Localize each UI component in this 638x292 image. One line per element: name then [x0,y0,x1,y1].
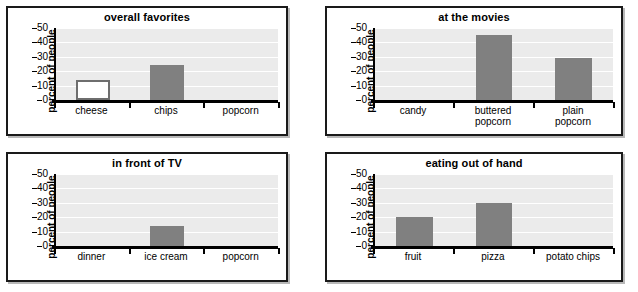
y-tick-mark [32,188,37,189]
x-tick-label: dinner [54,251,129,262]
bars-layer [375,28,613,100]
chart-panel-overall-favorites: overall favorites percent of people 0102… [6,6,288,136]
plot-wrap: 01020304050 [373,174,613,246]
plot-area [54,28,278,100]
bars-layer [56,174,278,246]
y-tick-mark [351,232,356,233]
y-tick-mark [351,217,356,218]
y-axis-ticks: 01020304050 [24,174,48,246]
y-tick-label: 0 [42,241,48,251]
y-tick-mark [32,86,37,87]
bar [476,35,512,100]
y-tick-label: 20 [356,66,367,76]
y-tick-mark [351,203,356,204]
bar [555,58,591,100]
bar-slot [56,28,130,100]
y-tick-mark [351,86,356,87]
plot-wrap: 01020304050 [54,174,278,246]
bar-slot [534,28,613,100]
y-tick-mark [351,57,356,58]
y-tick-label: 50 [356,23,367,33]
y-tick-mark [351,174,356,175]
y-tick-label: 10 [356,227,367,237]
y-axis-ticks: 01020304050 [343,174,367,246]
bar-slot [375,28,454,100]
x-axis-labels: dinnerice creampopcorn [54,248,278,276]
bar-slot [130,28,204,100]
y-tick-label: 20 [356,212,367,222]
y-tick-label: 10 [37,81,48,91]
y-tick-label: 10 [37,227,48,237]
x-tick-label: popcorn [203,105,278,116]
y-tick-label: 0 [42,95,48,105]
y-tick-mark [351,28,356,29]
chart-title: in front of TV [8,157,286,169]
bars-layer [56,28,278,100]
x-tick-label: potato chips [533,251,613,262]
bar [76,80,110,100]
y-tick-mark [32,203,37,204]
y-tick-label: 50 [37,23,48,33]
x-tick-label: candy [373,105,453,116]
x-axis-labels: fruitpizzapotato chips [373,248,613,276]
plot-area [373,28,613,100]
bar [476,203,512,246]
x-tick-mark [613,102,615,108]
y-tick-mark [356,246,361,247]
y-tick-label: 50 [37,169,48,179]
chart-title: overall favorites [8,11,286,23]
bar-slot [375,174,454,246]
x-tick-label: cheese [54,105,129,116]
y-tick-mark [32,174,37,175]
x-tick-mark [278,102,280,108]
y-tick-mark [37,246,42,247]
y-tick-mark [351,71,356,72]
plot-wrap: 01020304050 [373,28,613,100]
x-axis-labels: candybuttered popcornplain popcorn [373,102,613,130]
y-tick-label: 40 [356,183,367,193]
y-tick-mark [356,100,361,101]
y-axis-ticks: 01020304050 [343,28,367,100]
chart-panel-in-front-of-tv: in front of TV percent of people 0102030… [6,152,288,282]
y-tick-mark [32,28,37,29]
y-tick-label: 30 [37,198,48,208]
x-tick-mark [613,248,615,254]
y-tick-mark [37,100,42,101]
y-tick-label: 30 [356,52,367,62]
y-tick-mark [32,71,37,72]
bars-layer [375,174,613,246]
plot-wrap: 01020304050 [54,28,278,100]
chart-panel-eating-out-of-hand: eating out of hand percent of people 010… [325,152,623,282]
chart-title: eating out of hand [327,157,621,169]
x-tick-label: buttered popcorn [453,105,533,127]
y-tick-label: 40 [356,37,367,47]
y-tick-label: 10 [356,81,367,91]
bar-slot [454,174,533,246]
bar-slot [204,28,278,100]
y-axis-ticks: 01020304050 [24,28,48,100]
x-axis-labels: cheesechipspopcorn [54,102,278,130]
chart-title: at the movies [327,11,621,23]
x-tick-label: fruit [373,251,453,262]
y-tick-label: 20 [37,66,48,76]
y-tick-mark [32,57,37,58]
y-tick-label: 40 [37,37,48,47]
x-tick-label: popcorn [203,251,278,262]
chart-panel-at-the-movies: at the movies percent of people 01020304… [325,6,623,136]
x-tick-label: chips [129,105,204,116]
y-tick-mark [32,232,37,233]
bar-slot [56,174,130,246]
y-tick-label: 30 [37,52,48,62]
bar [150,226,184,246]
bar-slot [204,174,278,246]
y-tick-mark [32,42,37,43]
y-tick-label: 40 [37,183,48,193]
chart-panel-grid: overall favorites percent of people 0102… [0,0,638,292]
y-tick-mark [351,42,356,43]
plot-area [373,174,613,246]
y-tick-label: 0 [361,241,367,251]
bar-slot [130,174,204,246]
y-tick-label: 30 [356,198,367,208]
y-tick-mark [351,188,356,189]
y-tick-label: 20 [37,212,48,222]
